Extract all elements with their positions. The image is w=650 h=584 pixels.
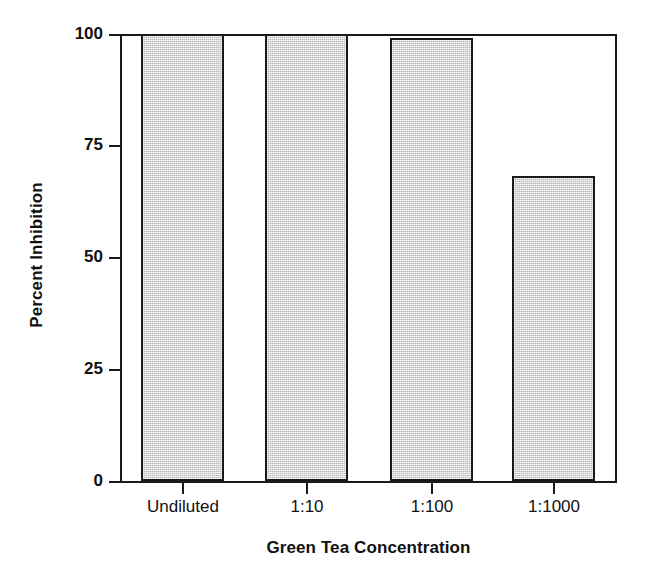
x-tick-1-100	[431, 483, 433, 494]
bar-1-1000	[512, 176, 595, 481]
y-axis-line	[120, 34, 122, 483]
y-tick-0: 0	[109, 481, 120, 483]
bar-chart-figure: Percent Inhibition 0 25 50 75 100	[0, 0, 650, 584]
x-tick-1-10	[306, 483, 308, 494]
x-tick-label-1-100: 1:100	[411, 497, 454, 517]
x-tick-label-1-10: 1:10	[290, 497, 323, 517]
y-tick-label-100: 100	[75, 24, 103, 44]
y-tick-label-0: 0	[94, 471, 103, 491]
x-tick-label-1-1000: 1:1000	[528, 497, 580, 517]
y-tick-50: 50	[109, 257, 120, 259]
plot-frame-right	[615, 34, 617, 483]
bar-1-10	[265, 34, 348, 481]
x-tick-undiluted	[182, 483, 184, 494]
y-tick-100: 100	[109, 34, 120, 36]
x-tick-1-1000	[553, 483, 555, 494]
y-tick-label-75: 75	[84, 135, 103, 155]
x-tick-label-undiluted: Undiluted	[147, 497, 219, 517]
x-axis-title: Green Tea Concentration	[120, 538, 617, 558]
x-axis-line	[120, 481, 617, 483]
y-tick-label-50: 50	[84, 247, 103, 267]
plot-area: 0 25 50 75 100 Undiluted 1:10 1:100 1:10…	[120, 34, 617, 483]
y-tick-label-25: 25	[84, 359, 103, 379]
y-axis-title: Percent Inhibition	[27, 155, 47, 355]
y-tick-25: 25	[109, 369, 120, 371]
bar-1-100	[390, 38, 473, 481]
bar-undiluted	[141, 34, 224, 481]
y-tick-75: 75	[109, 145, 120, 147]
